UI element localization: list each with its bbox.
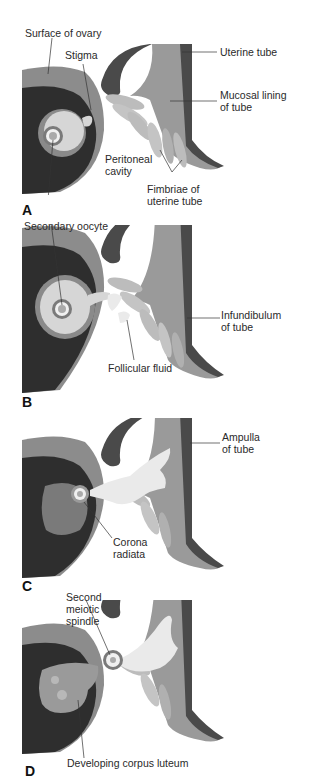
label-second-meiotic-spindle: Second meiotic spindle xyxy=(66,591,102,627)
uterine-tube xyxy=(90,418,224,570)
panel-c: Ampulla of tube Corona radiata xyxy=(0,418,335,578)
panel-a: Surface of ovary Stigma Uterine tube Muc… xyxy=(0,0,335,195)
panel-letter-c: C xyxy=(22,578,32,594)
ovary xyxy=(22,66,104,194)
panel-c-illustration xyxy=(0,418,335,578)
panel-letter-d: D xyxy=(25,763,35,779)
uterine-tube xyxy=(101,225,224,379)
ovary xyxy=(22,623,104,754)
label-infundibulum: Infundibulum of tube xyxy=(221,309,281,333)
label-corona-radiata: Corona radiata xyxy=(113,536,147,560)
label-follicular-fluid: Follicular fluid xyxy=(108,362,172,374)
label-fimbriae: Fimbriae of uterine tube xyxy=(147,183,202,207)
panel-letter-b: B xyxy=(22,394,32,410)
ovary xyxy=(22,226,110,393)
label-peritoneal-cavity: Peritoneal cavity xyxy=(105,153,152,177)
panel-b: Secondary oocyte Infundibulum of tube Fo… xyxy=(0,225,335,400)
label-ampulla: Ampulla of tube xyxy=(222,431,260,455)
label-stigma: Stigma xyxy=(65,49,98,61)
panel-d: Second meiotic spindle Developing corpus… xyxy=(0,600,335,782)
uterine-tube xyxy=(101,44,224,170)
panel-letter-a: A xyxy=(22,202,32,218)
label-uterine-tube: Uterine tube xyxy=(220,46,277,58)
label-surface-of-ovary: Surface of ovary xyxy=(25,27,101,39)
ovary xyxy=(22,436,104,578)
panel-d-illustration xyxy=(0,600,335,782)
label-mucosal-lining: Mucosal lining of tube xyxy=(220,89,287,113)
label-secondary-oocyte: Secondary oocyte xyxy=(24,220,108,232)
label-developing-corpus-luteum: Developing corpus luteum xyxy=(67,757,188,769)
uterine-tube xyxy=(101,600,224,742)
